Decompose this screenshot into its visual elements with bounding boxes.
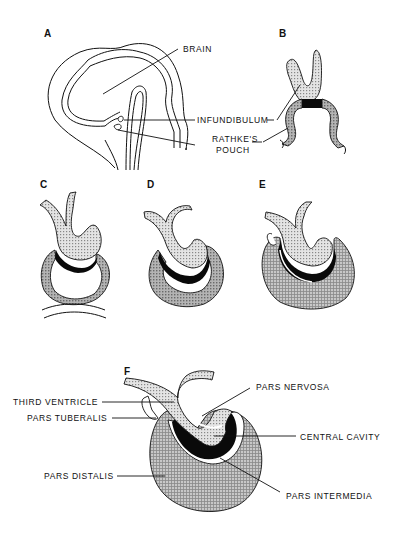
infundibulum-c — [40, 192, 101, 260]
label-pars-distalis: PARS DISTALIS — [44, 471, 114, 481]
panel-b-letter: B — [279, 28, 286, 39]
panel-a-letter: A — [44, 28, 51, 39]
pars-tuberalis — [142, 396, 158, 419]
infundibulum-shape — [287, 50, 322, 100]
panel-f-letter: F — [124, 366, 130, 377]
panel-e: E — [259, 179, 354, 309]
rathkes-pouch-shape — [114, 116, 123, 129]
panel-a: A BRAIN INFUNDIBULUM RATHKE'S POUCH — [44, 28, 274, 170]
brain-inner-wall — [68, 58, 174, 148]
panel-c-letter: C — [40, 179, 47, 190]
panel-d: D — [144, 179, 223, 307]
panel-f: F THIRD VENTRICLE PARS TUBERALIS PARS NE… — [13, 366, 380, 512]
brain-outer-wall — [62, 52, 180, 148]
label-pars-nervosa: PARS NERVOSA — [256, 382, 330, 392]
label-rathkes-pouch-line1: RATHKE'S — [212, 134, 258, 144]
label-infundibulum: INFUNDIBULUM — [197, 115, 268, 125]
pituitary-development-diagram: A BRAIN INFUNDIBULUM RATHKE'S POUCH B — [0, 0, 404, 540]
head-outline — [48, 44, 188, 168]
label-pars-tuberalis: PARS TUBERALIS — [27, 413, 107, 423]
label-brain: BRAIN — [183, 44, 212, 54]
panel-b: B — [263, 28, 346, 154]
panel-c: C — [40, 179, 109, 318]
panel-d-letter: D — [147, 179, 154, 190]
label-rathkes-pouch-line2: POUCH — [216, 145, 250, 155]
label-third-ventricle: THIRD VENTRICLE — [13, 397, 98, 407]
panel-e-letter: E — [259, 179, 266, 190]
label-central-cavity: CENTRAL CAVITY — [300, 432, 380, 442]
label-pars-intermedia: PARS INTERMEDIA — [286, 491, 372, 501]
